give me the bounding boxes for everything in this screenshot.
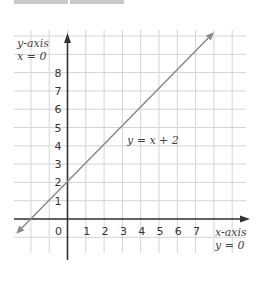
y-axis-label: y-axis <box>16 37 49 50</box>
x-tick-label: 7 <box>193 225 200 238</box>
y-tick-label: 3 <box>55 158 62 171</box>
x-tick-label: 4 <box>138 225 145 238</box>
x-tick-label: 3 <box>120 225 127 238</box>
x-axis-sublabel: y = 0 <box>214 239 244 252</box>
y-tick-label: 8 <box>55 67 62 80</box>
y-axis-arrow-icon <box>64 33 71 43</box>
y-tick-label: 5 <box>55 122 62 135</box>
x-axis-label: x-axis <box>215 226 247 239</box>
tick-labels: 0123456712345678 <box>55 67 201 238</box>
y-tick-label: 6 <box>55 103 62 116</box>
equation-label: y = x + 2 <box>126 134 179 147</box>
x-tick-label: 6 <box>175 225 182 238</box>
y-tick-label: 1 <box>55 195 62 208</box>
y-axis-sublabel: x = 0 <box>17 50 46 63</box>
x-tick-label: 0 <box>55 225 62 238</box>
x-tick-label: 1 <box>83 225 90 238</box>
y-tick-label: 4 <box>55 140 62 153</box>
x-tick-label: 5 <box>157 225 164 238</box>
y-tick-label: 7 <box>55 85 62 98</box>
x-axis-arrow-icon <box>240 216 250 223</box>
line-graph: 0123456712345678 y-axis x = 0 x-axis y =… <box>0 0 260 285</box>
y-tick-label: 2 <box>55 176 62 189</box>
function-line <box>22 38 208 228</box>
x-tick-label: 2 <box>102 225 109 238</box>
